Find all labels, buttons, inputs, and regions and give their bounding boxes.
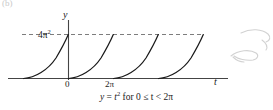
caption-lhs: y	[100, 92, 104, 102]
x-tick-label-0: 0	[65, 79, 70, 89]
curve-branch-1	[69, 35, 114, 79]
x-tick-label-2pi: 2π	[105, 79, 114, 89]
caption-expr-exponent: 2	[117, 90, 120, 97]
curve-branch-3	[159, 35, 204, 79]
curve-branch-2	[114, 35, 159, 79]
y-tick-label-4pi-squared: 4π2	[38, 28, 51, 40]
curve-series	[24, 35, 204, 79]
figure-container: (b) 4π2 y t 0 2π y = t2	[0, 0, 273, 110]
y-tick-label-exponent: 2	[48, 28, 51, 35]
pencil-scribble-marks	[231, 30, 270, 62]
caption-condition: for 0 ≤ t < 2π	[123, 92, 173, 102]
caption-equals: =	[107, 92, 112, 102]
x-axis-label: t	[214, 76, 217, 87]
curve-branch-0	[24, 35, 69, 79]
y-tick-label-base: 4π	[38, 30, 48, 40]
y-axis-label: y	[63, 9, 67, 20]
figure-caption: y = t2 for 0 ≤ t < 2π	[0, 90, 273, 102]
